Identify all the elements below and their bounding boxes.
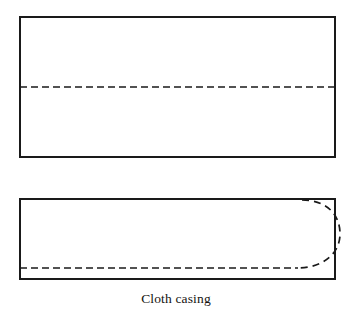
cloth-casing-figure: Cloth casing <box>0 0 352 314</box>
folded-panel-outline <box>20 199 335 279</box>
cloth-casing-flat-panel <box>20 17 335 157</box>
rounded-end-dashed-arc <box>298 200 340 268</box>
figure-caption: Cloth casing <box>0 291 352 307</box>
cloth-casing-diagram-svg <box>0 0 352 314</box>
cloth-casing-folded-panel <box>20 199 340 279</box>
